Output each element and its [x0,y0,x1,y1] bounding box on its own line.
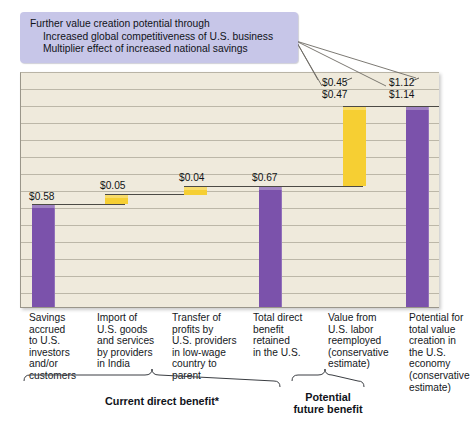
category-line: profits by [172,324,250,336]
gridline [21,89,439,90]
category-line: Total direct [253,312,323,324]
plot-bottom-edge [21,307,439,308]
value-label-bar-2: $0.05 [100,180,126,192]
category-line: economy [409,358,474,370]
category-line: retained [253,335,323,347]
chart-plot-area [20,72,439,308]
category-line: in the U.S. [253,347,323,359]
category-line: creation in [409,335,474,347]
category-line: total value [409,324,474,336]
value-label-bar-6-upper: $1.12 [389,77,415,89]
category-line: reemployed [328,335,404,347]
gridline [21,140,439,141]
category-label-2: Import of U.S. goods and services by pro… [97,312,169,370]
gridline [21,259,439,260]
callout-line-3: Multiplier effect of increased national … [30,43,290,56]
category-line: U.S. providers [172,335,250,347]
gridline [21,276,439,277]
category-line: parent [172,370,250,382]
category-line: estimate) [409,382,474,394]
bar-value-from-us-labor [343,107,366,186]
gridline [21,242,439,243]
category-line: Savings [29,312,91,324]
category-line: country to [172,358,250,370]
category-line: by providers [97,347,169,359]
gridline [21,123,439,124]
group-label-current-direct-benefit: Current direct benefit* [92,395,232,407]
category-label-6: Potential for total value creation in th… [409,312,474,393]
category-line: to U.S. [29,335,91,347]
category-line: in India [97,358,169,370]
category-labels: Savings accrued to U.S. investors and/or… [20,312,469,384]
category-label-1: Savings accrued to U.S. investors and/or… [29,312,91,382]
group-label-potential-future-benefit: Potential future benefit [268,391,388,416]
value-label-bar-5-upper: $0.45 [322,77,348,89]
category-line: customers [29,370,91,382]
bar-transfer-of-profits [184,187,207,195]
category-line: (conservative [409,370,474,382]
category-line: Value from [328,312,404,324]
category-line: U.S. goods [97,324,169,336]
category-line: accrued [29,324,91,336]
group-label-line: Potential [268,391,388,403]
category-line: Import of [97,312,169,324]
category-line: estimate) [328,358,404,370]
category-line: (conservative [328,347,404,359]
category-line: benefit [253,324,323,336]
group-label-line: future benefit [268,403,388,415]
bar-potential-total-value [406,107,429,308]
value-label-bar-5-lower: $0.47 [322,89,348,101]
gridline [21,225,439,226]
bar-savings-accrued [32,205,55,308]
group-label-line: Current direct benefit* [92,395,232,407]
category-line: Potential for [409,312,474,324]
gridline [21,191,439,192]
gridline [21,157,439,158]
further-value-callout: Further value creation potential through… [20,12,298,63]
value-label-bar-6-lower: $1.14 [389,89,415,101]
category-label-3: Transfer of profits by U.S. providers in… [172,312,250,382]
bar-total-direct-benefit [259,187,282,308]
value-label-bar-3: $0.04 [179,172,205,184]
category-line: and/or [29,358,91,370]
callout-line-1: Further value creation potential through [30,18,290,31]
gridline [21,174,439,175]
bar-import-us-goods [105,195,128,204]
value-label-bar-4: $0.67 [252,172,278,184]
category-line: investors [29,347,91,359]
category-line: U.S. labor [328,324,404,336]
gridline [21,293,439,294]
category-line: and services [97,335,169,347]
category-line: in low-wage [172,347,250,359]
category-line: Transfer of [172,312,250,324]
category-label-4: Total direct benefit retained in the U.S… [253,312,323,358]
value-label-bar-1: $0.58 [29,191,55,203]
gridline [21,208,439,209]
callout-line-2: Increased global competitiveness of U.S.… [30,31,290,44]
category-line: the U.S. [409,347,474,359]
category-label-5: Value from U.S. labor reemployed (conser… [328,312,404,370]
